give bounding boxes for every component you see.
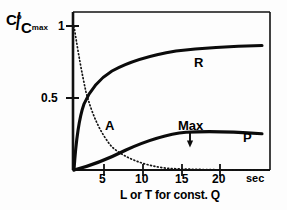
- curve-R: [74, 46, 262, 171]
- y-tick-label-0-5: 0.5: [41, 91, 58, 105]
- figure-chart: Co / Cmax: [0, 0, 287, 210]
- x-tick-label-20: 20: [212, 172, 225, 186]
- x-tick-label-5: 5: [99, 172, 106, 186]
- curve-label-A: A: [105, 118, 114, 133]
- y-tick-label-1: 1: [58, 19, 65, 33]
- curve-label-P: P: [243, 130, 252, 145]
- max-annotation-text: Max: [178, 118, 203, 133]
- x-axis-caption: L or T for const. Q: [120, 188, 220, 202]
- curve-label-R: R: [194, 55, 203, 70]
- curve-P: [74, 132, 262, 170]
- plot-frame: [73, 12, 270, 170]
- x-tick-label-15: 15: [175, 172, 188, 186]
- x-axis-unit-label: sec: [246, 172, 264, 184]
- x-tick-label-10: 10: [135, 172, 148, 186]
